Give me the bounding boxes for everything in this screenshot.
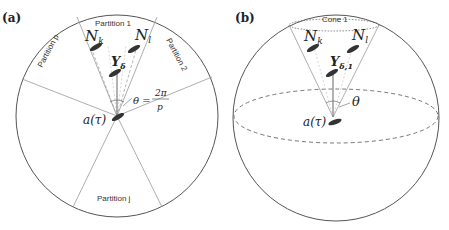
theta-denominator: p <box>157 102 163 112</box>
drone-icon-nl <box>346 43 361 54</box>
theta-label: θ = <box>133 95 151 106</box>
angle-pointer <box>123 98 132 106</box>
sphere-equator <box>234 89 438 143</box>
theta-numerator: 2π <box>154 88 168 98</box>
node-nl-label: Nl <box>351 26 368 45</box>
cone-label: Cone 1 <box>322 15 348 24</box>
drone-icon-nl <box>127 43 142 54</box>
node-y-label: Yδ <box>111 54 126 71</box>
origin-label: a(τ) <box>83 113 106 127</box>
sphere-outline <box>233 15 439 221</box>
angle-pointer <box>339 103 350 107</box>
drone-icon-origin <box>328 117 343 126</box>
partition-1-label: Partition 1 <box>95 19 132 28</box>
diagram-canvas: (a) Partition 1 Partition 2 Partition p … <box>0 0 449 230</box>
node-nl-label: Nl <box>134 26 151 45</box>
panel-a-label: (a) <box>2 11 21 25</box>
node-nk-label: Nk <box>84 27 104 46</box>
theta-label: θ <box>352 94 360 109</box>
panel-a: (a) Partition 1 Partition 2 Partition p … <box>2 11 218 217</box>
boundary-line <box>22 79 117 116</box>
partition-j-label: Partition j <box>97 194 131 203</box>
origin-label: a(τ) <box>303 115 326 129</box>
node-nk-label: Nk <box>303 27 323 46</box>
node-y-label: Yδ,1 <box>330 54 353 71</box>
drone-icon-y <box>325 67 340 78</box>
panel-b: (b) Cone 1 Nk Nl Yδ,1 θ a(τ) <box>233 11 439 221</box>
panel-b-label: (b) <box>235 11 255 25</box>
